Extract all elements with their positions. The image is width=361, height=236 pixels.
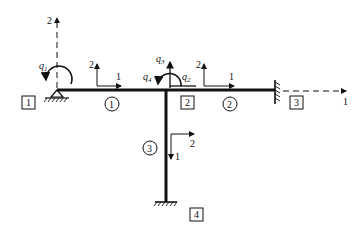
global-axis-1: 1 <box>283 91 348 107</box>
node-label-3: 3 <box>290 96 303 109</box>
local-axes-element-2: 2 1 <box>196 59 234 86</box>
local-axes-element-3: 2 1 <box>171 134 195 162</box>
svg-text:q2: q2 <box>182 71 191 84</box>
dof-q4-rotation-icon: q4 <box>143 71 181 86</box>
element-label-2: 2 <box>223 97 237 111</box>
svg-text:2: 2 <box>190 138 195 149</box>
frame-diagram: 2 1 1 2 3 4 1 <box>0 0 361 236</box>
svg-text:q3: q3 <box>156 53 165 66</box>
pin-support-icon <box>44 90 69 102</box>
dof-q1-rotation-icon: q1 <box>39 60 72 84</box>
svg-text:3: 3 <box>294 97 299 108</box>
svg-text:1: 1 <box>229 71 234 82</box>
svg-text:2: 2 <box>227 99 232 110</box>
element-label-3: 3 <box>143 141 157 155</box>
fixed-wall-support-icon <box>275 80 280 104</box>
svg-text:2: 2 <box>185 97 190 108</box>
global-axis-2: 2 <box>47 15 57 88</box>
svg-text:1: 1 <box>116 71 121 82</box>
svg-text:q4: q4 <box>143 71 152 84</box>
node-label-2: 2 <box>181 96 194 109</box>
dof-q2-horizontal-icon: q2 <box>170 71 196 86</box>
local-axes-element-1: 2 1 <box>89 59 121 86</box>
svg-text:q1: q1 <box>39 60 48 73</box>
svg-text:2: 2 <box>47 15 52 26</box>
svg-text:1: 1 <box>343 96 348 107</box>
fixed-ground-support-icon <box>154 202 177 206</box>
svg-text:1: 1 <box>26 97 31 108</box>
node-label-1: 1 <box>22 96 35 109</box>
svg-text:2: 2 <box>89 59 94 70</box>
node-label-4: 4 <box>190 208 203 221</box>
svg-text:4: 4 <box>194 209 199 220</box>
svg-text:1: 1 <box>109 99 114 110</box>
svg-text:2: 2 <box>196 59 201 70</box>
svg-text:3: 3 <box>147 143 152 154</box>
element-label-1: 1 <box>105 97 119 111</box>
svg-text:1: 1 <box>175 151 180 162</box>
